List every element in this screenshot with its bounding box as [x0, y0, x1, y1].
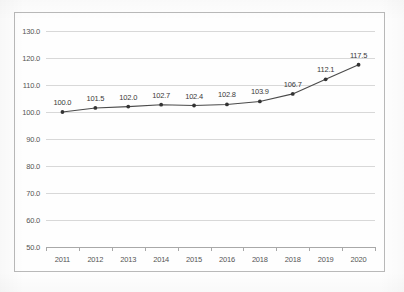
- gridline: [46, 31, 375, 32]
- x-axis-tick: [243, 247, 244, 251]
- gridline: [46, 85, 375, 86]
- gridline: [46, 58, 375, 59]
- y-axis-tick-label: 80.0: [0, 162, 40, 171]
- x-axis-tick: [46, 247, 47, 251]
- x-axis-tick: [211, 247, 212, 251]
- y-axis-tick-label: 110.0: [0, 81, 40, 90]
- x-axis-tick: [276, 247, 277, 251]
- gridline: [46, 139, 375, 140]
- y-axis-tick-label: 130.0: [0, 27, 40, 36]
- x-axis-tick: [342, 247, 343, 251]
- y-axis-tick-label: 90.0: [0, 135, 40, 144]
- y-axis-tick-label: 70.0: [0, 189, 40, 198]
- x-axis-tick: [309, 247, 310, 251]
- x-axis-tick-label: 2020: [339, 255, 379, 264]
- x-axis-tick: [112, 247, 113, 251]
- gridline: [46, 220, 375, 221]
- y-axis-tick-label: 100.0: [0, 108, 40, 117]
- gridline: [46, 112, 375, 113]
- x-axis-tick: [79, 247, 80, 251]
- plot-area: [46, 31, 375, 247]
- x-axis-tick: [145, 247, 146, 251]
- x-axis-tick: [375, 247, 376, 251]
- chart-title-remnant: [120, 0, 280, 5]
- y-axis-tick-label: 50.0: [0, 243, 40, 252]
- y-axis-tick-label: 120.0: [0, 54, 40, 63]
- scanned-page: 130.0120.0110.0100.090.080.070.060.050.0…: [0, 0, 404, 292]
- data-point-label: 117.5: [339, 51, 379, 60]
- data-point-label: 112.1: [306, 65, 346, 74]
- y-axis-tick-label: 60.0: [0, 216, 40, 225]
- data-point-label: 106.7: [273, 80, 313, 89]
- x-axis-tick: [178, 247, 179, 251]
- gridline: [46, 193, 375, 194]
- gridline: [46, 166, 375, 167]
